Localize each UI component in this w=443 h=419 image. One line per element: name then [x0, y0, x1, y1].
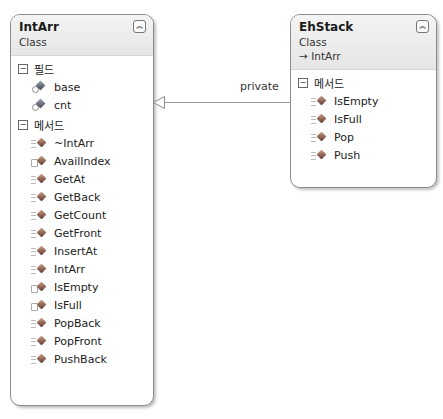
class-name: IntArr: [19, 20, 145, 35]
method-popfront[interactable]: PopFront: [11, 332, 153, 350]
member-name: PushBack: [54, 353, 107, 366]
public-method-icon: [31, 191, 45, 203]
section-title: 메서드: [314, 75, 344, 91]
private-method-icon: [31, 281, 45, 293]
private-field-icon: [31, 81, 45, 93]
private-method-icon: [31, 299, 45, 311]
public-method-icon: [311, 149, 325, 161]
section-collapse-icon[interactable]: −: [18, 64, 28, 74]
section-collapse-icon[interactable]: −: [298, 78, 308, 88]
class-intarr[interactable]: IntArr Class ︽ − 필드 base cnt − 메서드 ~IntA…: [10, 14, 154, 406]
method-intarr-constructor[interactable]: IntArr: [11, 260, 153, 278]
public-method-icon: [311, 113, 325, 125]
public-method-icon: [31, 209, 45, 221]
class-ehstack[interactable]: EhStack Class → IntArr ︽ − 메서드 IsEmpty I…: [290, 14, 437, 188]
method-isempty[interactable]: IsEmpty: [291, 92, 436, 110]
section-title: 필드: [34, 61, 54, 77]
method-isfull[interactable]: IsFull: [11, 296, 153, 314]
method-isfull[interactable]: IsFull: [291, 110, 436, 128]
member-name: base: [54, 81, 80, 94]
member-name: InsertAt: [54, 245, 97, 258]
member-name: GetCount: [54, 209, 106, 222]
fields-section-header[interactable]: − 필드: [11, 60, 153, 78]
member-name: IsEmpty: [54, 281, 98, 294]
member-name: Pop: [334, 131, 354, 144]
method-isempty[interactable]: IsEmpty: [11, 278, 153, 296]
base-class-label: → IntArr: [299, 49, 428, 63]
member-name: IsEmpty: [334, 95, 378, 108]
method-insertat[interactable]: InsertAt: [11, 242, 153, 260]
public-method-icon: [31, 137, 45, 149]
method-push[interactable]: Push: [291, 146, 436, 164]
method-availindex[interactable]: AvailIndex: [11, 152, 153, 170]
methods-section-header[interactable]: − 메서드: [11, 116, 153, 134]
member-name: GetBack: [54, 191, 100, 204]
class-intarr-header[interactable]: IntArr Class ︽: [11, 15, 153, 56]
methods-section: − 메서드 ~IntArr AvailIndex GetAt GetBack G…: [11, 116, 153, 370]
member-name: IsFull: [334, 113, 362, 126]
inheritance-connector[interactable]: [164, 102, 290, 103]
private-method-icon: [31, 155, 45, 167]
class-kind: Class: [299, 35, 428, 49]
field-base[interactable]: base: [11, 78, 153, 96]
member-name: Push: [334, 149, 360, 162]
method-popback[interactable]: PopBack: [11, 314, 153, 332]
section-title: 메서드: [34, 117, 64, 133]
method-getcount[interactable]: GetCount: [11, 206, 153, 224]
method-destructor[interactable]: ~IntArr: [11, 134, 153, 152]
public-method-icon: [31, 245, 45, 257]
field-cnt[interactable]: cnt: [11, 96, 153, 114]
fields-section: − 필드 base cnt: [11, 56, 153, 116]
member-name: IntArr: [54, 263, 85, 276]
collapse-chevron-icon[interactable]: ︽: [416, 20, 429, 33]
public-method-icon: [311, 131, 325, 143]
class-ehstack-header[interactable]: EhStack Class → IntArr ︽: [291, 15, 436, 70]
section-collapse-icon[interactable]: −: [18, 120, 28, 130]
method-pop[interactable]: Pop: [291, 128, 436, 146]
public-method-icon: [31, 227, 45, 239]
class-name: EhStack: [299, 20, 428, 35]
method-pushback[interactable]: PushBack: [11, 350, 153, 368]
public-method-icon: [31, 335, 45, 347]
public-method-icon: [31, 353, 45, 365]
methods-section-header[interactable]: − 메서드: [291, 74, 436, 92]
public-method-icon: [31, 317, 45, 329]
relationship-label: private: [240, 80, 279, 93]
methods-section: − 메서드 IsEmpty IsFull Pop Push: [291, 70, 436, 166]
private-field-icon: [31, 99, 45, 111]
member-name: IsFull: [54, 299, 82, 312]
member-name: GetAt: [54, 173, 85, 186]
public-method-icon: [31, 263, 45, 275]
member-name: GetFront: [54, 227, 101, 240]
member-name: AvailIndex: [54, 155, 111, 168]
member-name: ~IntArr: [54, 137, 94, 150]
class-kind: Class: [19, 35, 145, 49]
method-getback[interactable]: GetBack: [11, 188, 153, 206]
collapse-chevron-icon[interactable]: ︽: [133, 20, 146, 33]
member-name: PopBack: [54, 317, 101, 330]
member-name: PopFront: [54, 335, 102, 348]
method-getfront[interactable]: GetFront: [11, 224, 153, 242]
public-method-icon: [31, 173, 45, 185]
method-getat[interactable]: GetAt: [11, 170, 153, 188]
inheritance-arrowhead-icon: [153, 96, 165, 109]
public-method-icon: [311, 95, 325, 107]
member-name: cnt: [54, 99, 71, 112]
